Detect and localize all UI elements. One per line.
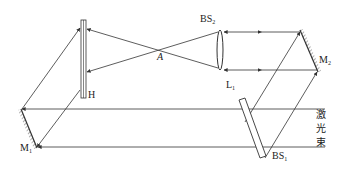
ray-m1-bottom-to-h (37, 90, 80, 147)
label-bs1: BS1 (272, 150, 287, 162)
ray-lens-bottom-to-h-top (87, 29, 218, 68)
hologram-plate (81, 20, 86, 98)
mirror-m2 (300, 29, 321, 72)
beam-splitter-bs1 (239, 98, 266, 158)
label-laser-2: 光 (316, 122, 326, 134)
label-m1: M1 (20, 142, 32, 154)
ray-bs1-to-m2-bottom (265, 72, 317, 158)
label-laser-1: 激 (316, 108, 326, 120)
ray-bs1-to-m2-top (245, 32, 300, 122)
label-laser-3: 束 (316, 137, 326, 148)
label-l1: L1 (226, 79, 235, 91)
optical-setup-diagram: H A BS2 L1 M2 M1 BS1 激 光 束 (0, 0, 343, 171)
label-bs2: BS2 (200, 13, 215, 25)
lens-bs2 (217, 30, 223, 70)
label-m2: M2 (319, 54, 331, 66)
label-h: H (88, 89, 95, 100)
ray-lens-top-to-h-bottom (87, 32, 218, 72)
label-a: A (156, 51, 164, 62)
ray-m1-top-to-h (22, 28, 80, 109)
